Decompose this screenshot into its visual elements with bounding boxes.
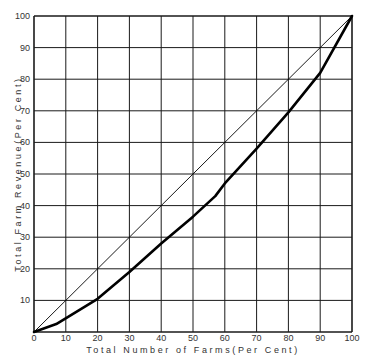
x-axis-ticks: 0102030405060708090100 — [31, 333, 359, 343]
x-tick-label: 10 — [61, 333, 71, 343]
x-tick-label: 60 — [220, 333, 230, 343]
y-axis-label: Total Farm Revenue(Per Cent) — [13, 76, 23, 271]
y-tick-label: 10 — [20, 295, 30, 305]
x-tick-label: 20 — [93, 333, 103, 343]
y-tick-label: 90 — [20, 43, 30, 53]
x-axis-label: Total Number of Farms(Per Cent) — [86, 345, 300, 355]
x-tick-label: 50 — [188, 333, 198, 343]
x-tick-label: 90 — [315, 333, 325, 343]
x-tick-label: 0 — [31, 333, 36, 343]
x-tick-label: 100 — [344, 333, 359, 343]
x-tick-label: 30 — [124, 333, 134, 343]
x-tick-label: 70 — [252, 333, 262, 343]
lorenz-chart: 0102030405060708090100 10203040506070809… — [0, 0, 372, 364]
y-tick-label: 100 — [15, 11, 30, 21]
x-tick-label: 80 — [283, 333, 293, 343]
x-tick-label: 40 — [156, 333, 166, 343]
